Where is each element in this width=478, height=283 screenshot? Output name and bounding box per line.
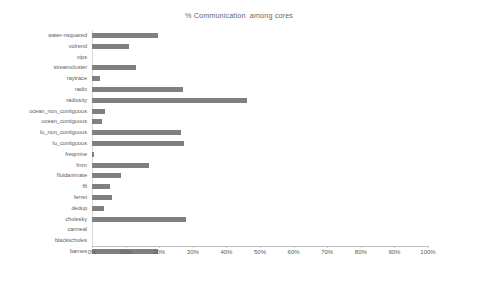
category-label: blackscholes [55, 235, 87, 246]
category-label: canneal [67, 224, 87, 235]
x-tick-label: 0% [88, 249, 97, 255]
category-label: raytrace [67, 73, 87, 84]
category-label: lu_contiguous [52, 138, 87, 149]
bar-row: water-nsquared [92, 30, 428, 41]
bar [92, 195, 112, 200]
bar [92, 130, 181, 135]
x-tick-mark [428, 246, 429, 248]
x-tick-mark [126, 246, 127, 248]
x-tick-label: 70% [321, 249, 333, 255]
bar [92, 184, 110, 189]
bar [92, 152, 94, 157]
bar [92, 173, 121, 178]
category-label: fluidanimate [57, 170, 87, 181]
bar-row: cholesky [92, 214, 428, 225]
bar [92, 119, 102, 124]
bar-row: volrend [92, 41, 428, 52]
category-label: volrend [69, 41, 87, 52]
x-tick-mark [361, 246, 362, 248]
x-tick-label: 90% [388, 249, 400, 255]
x-tick-mark [327, 246, 328, 248]
x-tick-label: 80% [355, 249, 367, 255]
bar [92, 109, 105, 114]
category-label: fft [82, 181, 87, 192]
category-label: lu_non_contiguous [40, 127, 87, 138]
bar-row: fft [92, 181, 428, 192]
category-label: radix [75, 84, 87, 95]
bar-row: raytrace [92, 73, 428, 84]
category-label: ocean_contiguous [42, 116, 87, 127]
bar-row: vips [92, 52, 428, 63]
bar [92, 87, 183, 92]
x-tick-label: 10% [120, 249, 132, 255]
x-tick-label: 20% [153, 249, 165, 255]
category-label: freqmine [65, 149, 87, 160]
bar [92, 65, 136, 70]
chart-title: % Communication among cores [0, 11, 478, 20]
bar [92, 44, 129, 49]
x-tick-mark [226, 246, 227, 248]
bar-row: blackscholes [92, 235, 428, 246]
x-tick-label: 30% [187, 249, 199, 255]
category-label: cholesky [65, 214, 87, 225]
bar [92, 141, 184, 146]
category-label: ocean_non_contiguous [29, 106, 87, 117]
bar-row: fmm [92, 160, 428, 171]
x-tick-mark [92, 246, 93, 248]
category-label: ferret [74, 192, 87, 203]
bar [92, 163, 149, 168]
bar [92, 98, 247, 103]
plot-area: water-nsquaredvolrendvipsstreamclusterra… [92, 30, 428, 246]
bar-row: lu_non_contiguous [92, 127, 428, 138]
category-label: radiosity [66, 95, 87, 106]
category-label: water-nsquared [48, 30, 87, 41]
bar-row: freqmine [92, 149, 428, 160]
category-label: vips [77, 52, 87, 63]
bar-row: streamcluster [92, 62, 428, 73]
bar-row: ferret [92, 192, 428, 203]
bar [92, 76, 100, 81]
x-tick-label: 60% [288, 249, 300, 255]
bar-row: ocean_non_contiguous [92, 106, 428, 117]
x-tick-label: 100% [420, 249, 435, 255]
bar-row: fluidanimate [92, 170, 428, 181]
bar-row: radix [92, 84, 428, 95]
bar-row: radiosity [92, 95, 428, 106]
bar-row: ocean_contiguous [92, 116, 428, 127]
bar [92, 206, 104, 211]
x-tick-mark [294, 246, 295, 248]
bar-row: lu_contiguous [92, 138, 428, 149]
category-label: fmm [76, 160, 87, 171]
bar-row: dedup [92, 203, 428, 214]
bar-row: canneal [92, 224, 428, 235]
bar [92, 217, 186, 222]
category-label: barnes [70, 246, 87, 257]
x-tick-mark [193, 246, 194, 248]
x-tick-label: 40% [220, 249, 232, 255]
category-label: dedup [71, 203, 87, 214]
x-tick-mark [260, 246, 261, 248]
x-tick-mark [159, 246, 160, 248]
chart-container: % Communication among cores water-nsquar… [0, 0, 478, 283]
bar [92, 33, 158, 38]
x-tick-label: 50% [254, 249, 266, 255]
x-axis-tick-labels: 0%10%20%30%40%50%60%70%80%90%100% [92, 249, 428, 263]
category-label: streamcluster [53, 62, 87, 73]
x-tick-mark [394, 246, 395, 248]
